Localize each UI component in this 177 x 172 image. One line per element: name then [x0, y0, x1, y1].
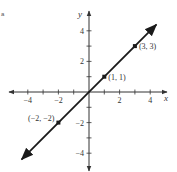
y-tick-label: 4: [80, 27, 84, 36]
x-tick-label: 2: [118, 96, 122, 105]
line-chart: −4−22442−2−4 (−2, −2)(1, 1)(3, 3) xy: [0, 0, 177, 172]
x-tick-label: −2: [54, 96, 63, 105]
axes: [9, 11, 167, 171]
y-tick-label: −2: [75, 119, 84, 128]
data-point-marker: [133, 44, 137, 48]
x-axis-label: x: [163, 93, 168, 103]
y-axis-label: y: [77, 9, 82, 19]
y-tick-label: −4: [75, 149, 84, 158]
x-tick-label: −4: [24, 96, 33, 105]
data-point-label: (1, 1): [108, 73, 126, 82]
data-point-label: (3, 3): [139, 42, 157, 51]
axis-labels: xy: [77, 9, 168, 103]
data-points: (−2, −2)(1, 1)(3, 3): [28, 42, 157, 125]
data-point-label: (−2, −2): [28, 114, 55, 123]
y-tick-label: 2: [80, 57, 84, 66]
data-point-marker: [56, 121, 60, 125]
data-point-marker: [102, 75, 106, 79]
x-tick-label: 4: [148, 96, 152, 105]
